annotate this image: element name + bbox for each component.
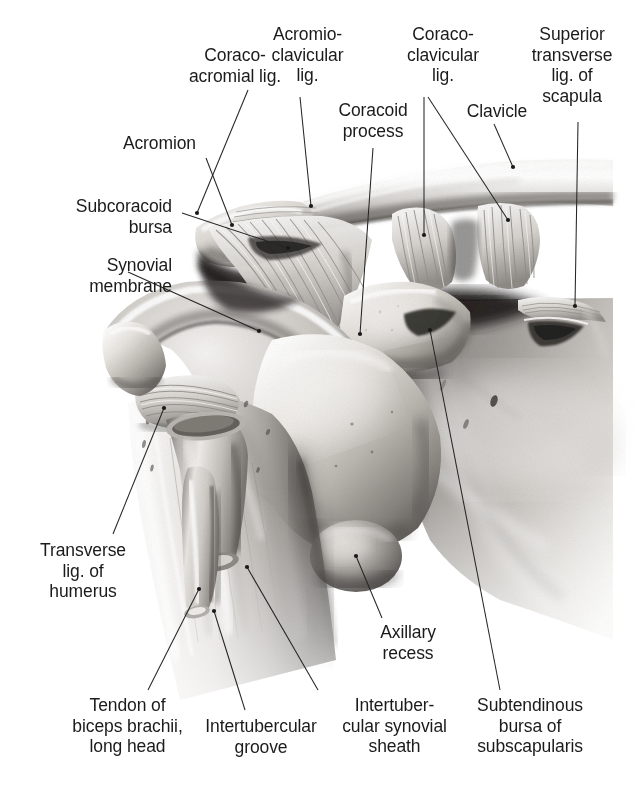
leader-line-acromion — [206, 158, 232, 225]
label-superior-transverse-lig-of-scapula: Superiortransverselig. ofscapula — [512, 24, 632, 106]
label-line: Transverse — [18, 540, 148, 561]
leader-dot-acromion — [230, 223, 234, 227]
label-line: groove — [196, 737, 326, 758]
leader-dot-subcoracoid-bursa — [286, 246, 290, 250]
leader-line-acromio-clavicular-lig — [300, 97, 311, 206]
label-line: membrane — [18, 276, 172, 297]
leader-dot-intertubercular-groove — [212, 609, 216, 613]
label-line: Acromion — [52, 133, 196, 154]
label-line: Intertuber- — [327, 695, 462, 716]
label-line: lig. of — [512, 65, 632, 86]
leader-line-transverse-lig-of-humerus — [113, 408, 164, 534]
label-acromion: Acromion — [52, 133, 196, 154]
label-line: biceps brachii, — [55, 716, 200, 737]
label-axillary-recess: Axillaryrecess — [358, 622, 458, 663]
leader-dot-acromio-clavicular-lig — [309, 204, 313, 208]
leader-line-intertubercular-groove — [214, 611, 245, 710]
label-line: lig. — [383, 65, 503, 86]
leader-dot-transverse-lig-of-humerus — [162, 406, 166, 410]
label-subcoracoid-bursa: Subcoracoidbursa — [20, 196, 172, 237]
label-line: lig. of — [18, 561, 148, 582]
label-coraco-clavicular-lig: Coraco-clavicularlig. — [383, 24, 503, 86]
label-transverse-lig-of-humerus: Transverselig. ofhumerus — [18, 540, 148, 602]
leader-dot-coraco-clavicular-lig — [506, 218, 510, 222]
label-line: Superior — [512, 24, 632, 45]
leader-dot-synovial-membrane — [257, 329, 261, 333]
label-line: process — [318, 121, 428, 142]
label-line: transverse — [512, 45, 632, 66]
leader-dot-axillary-recess — [354, 554, 358, 558]
label-coracoid-process: Coracoidprocess — [318, 100, 428, 141]
label-line: sheath — [327, 736, 462, 757]
leader-dot-clavicle — [511, 165, 515, 169]
anatomy-figure: Coraco-acromial lig.Acromio-clavicularli… — [0, 0, 635, 788]
leader-line-coraco-acromial-lig — [197, 90, 248, 213]
label-intertubercular-groove: Intertuberculargroove — [196, 716, 326, 757]
leader-line-coracoid-process — [360, 148, 373, 334]
label-line: subscapularis — [450, 736, 610, 757]
label-line: clavicular — [245, 45, 370, 66]
label-line: Acromio- — [245, 24, 370, 45]
leader-dot-tendon-of-biceps-brachii-long-head — [197, 587, 201, 591]
label-line: recess — [358, 643, 458, 664]
label-line: long head — [55, 736, 200, 757]
label-line: clavicular — [383, 45, 503, 66]
label-subtendinous-bursa-of-subscapularis: Subtendinousbursa ofsubscapularis — [450, 695, 610, 757]
leader-dot-coraco-clavicular-lig — [422, 233, 426, 237]
leader-line-tendon-of-biceps-brachii-long-head — [148, 589, 199, 690]
leader-line-subcoracoid-bursa — [182, 213, 288, 248]
leader-dot-coracoid-process — [358, 332, 362, 336]
label-line: Tendon of — [55, 695, 200, 716]
label-synovial-membrane: Synovialmembrane — [18, 255, 172, 296]
label-line: Coracoid — [318, 100, 428, 121]
label-tendon-of-biceps-brachii-long-head: Tendon ofbiceps brachii,long head — [55, 695, 200, 757]
label-line: scapula — [512, 86, 632, 107]
leader-dot-superior-transverse-lig-of-scapula — [573, 304, 577, 308]
leader-line-axillary-recess — [356, 556, 382, 618]
label-line: humerus — [18, 581, 148, 602]
label-intertubercular-synovial-sheath: Intertuber-cular synovialsheath — [327, 695, 462, 757]
leader-dot-intertubercular-synovial-sheath — [245, 565, 249, 569]
label-line: Coraco- — [383, 24, 503, 45]
leader-line-clavicle — [494, 124, 513, 167]
label-line: cular synovial — [327, 716, 462, 737]
label-line: bursa of — [450, 716, 610, 737]
leader-line-superior-transverse-lig-of-scapula — [575, 122, 578, 306]
leader-dot-coraco-acromial-lig — [195, 211, 199, 215]
label-line: bursa — [20, 217, 172, 238]
label-line: Synovial — [18, 255, 172, 276]
label-line: Subtendinous — [450, 695, 610, 716]
label-line: Subcoracoid — [20, 196, 172, 217]
label-line: lig. — [245, 65, 370, 86]
label-acromio-clavicular-lig: Acromio-clavicularlig. — [245, 24, 370, 86]
leader-line-intertubercular-synovial-sheath — [247, 567, 318, 690]
label-line: Intertubercular — [196, 716, 326, 737]
leader-dot-subtendinous-bursa-of-subscapularis — [428, 328, 432, 332]
label-line: Axillary — [358, 622, 458, 643]
